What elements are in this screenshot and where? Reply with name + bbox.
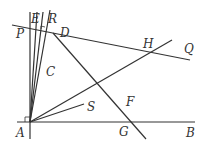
right-angle-A [25,117,30,122]
label-D: D [59,26,70,40]
label-C: C [46,65,55,79]
label-S: S [87,100,95,114]
label-E: E [30,12,40,26]
label-A: A [15,126,25,140]
label-G: G [119,125,129,139]
label-B: B [185,126,195,140]
geometry-diagram: P E R D H Q C F S A G B [0,0,208,147]
label-F: F [125,95,135,109]
label-Q: Q [184,42,194,56]
line-PQ [12,25,190,60]
label-H: H [142,37,154,51]
line-AH [30,40,172,122]
label-P: P [15,27,25,41]
label-R: R [47,12,57,26]
